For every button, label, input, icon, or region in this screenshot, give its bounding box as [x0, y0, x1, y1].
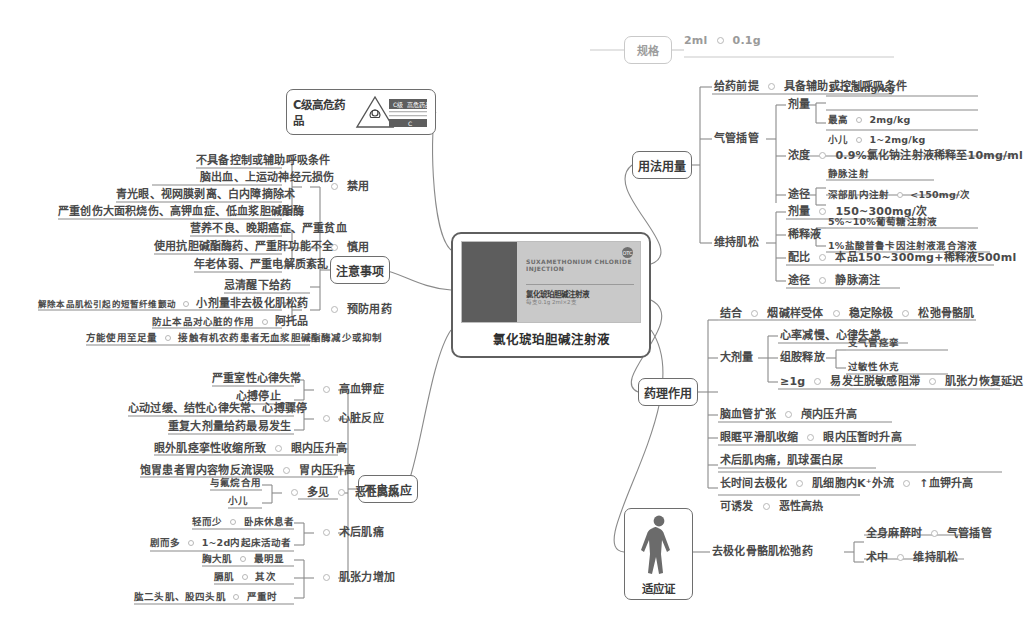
connector-dot — [768, 83, 775, 90]
connector-dot — [183, 301, 189, 307]
caution-item-1: 使用抗胆碱酯酶药、严重肝功能不全 — [154, 241, 333, 252]
contraindicated-item-0: 不具备控制或辅助呼吸条件 — [196, 155, 330, 166]
adverse-intraocular-row: 眼外肌痉挛性收缩所致 眼内压升高 — [154, 443, 347, 454]
package-dark-panel — [462, 242, 517, 322]
topic-usage[interactable]: 用法用量 — [632, 151, 692, 179]
intubation-dose-child-label: 小儿 — [828, 134, 848, 145]
pharm-binding-label: 结合 — [720, 307, 742, 320]
pharm-depolarization-detail: 长时间去极化 肌细胞内K⁺外流 ↑血钾升高 — [720, 478, 973, 489]
maintenance-route-value: 静脉滴注 — [835, 274, 880, 287]
connector-dot — [856, 137, 862, 143]
connector-dot — [262, 319, 268, 325]
pharm-histamine-label: 组胺释放 — [780, 352, 825, 363]
adverse-cardiac-row: 心脏反应 — [318, 413, 384, 424]
precautions-prophylaxis-row: 预防用药 — [326, 304, 392, 315]
connector-dot — [323, 529, 330, 536]
central-topic-node[interactable]: OTC SUXAMETHONIUM CHLORIDE INJECTION 氯化琥… — [451, 232, 651, 358]
human-body-icon — [637, 513, 681, 579]
topic-indications[interactable]: 适应证 — [624, 508, 693, 600]
pharm-ocular-value: 眼内压暂时升高 — [823, 431, 901, 444]
hazard-class-label: C级高危药品 — [293, 96, 351, 128]
adverse-gastric-row: 饱胃患者胃内容物反流误吸 胃内压升高 — [140, 465, 355, 476]
connector-dot — [323, 415, 330, 422]
precautions-organophosphate-value: 接触有机农药患者无血浆胆碱酯酶减少或抑制 — [178, 332, 382, 343]
adverse-hyperkalemia-label: 高血钾症 — [339, 383, 384, 396]
connector-dot — [796, 480, 803, 487]
usage-maintenance-label: 维持肌松 — [714, 237, 759, 248]
connector-dot — [819, 277, 826, 284]
prophylaxis-item-1: 防止本品对心脏的作用 阿托品 — [152, 316, 309, 327]
connector-dot — [275, 445, 282, 452]
maintenance-diluent-option2: 1%盐酸普鲁卡因注射液混合溶液 — [828, 241, 977, 251]
pharm-highdose-label: 大剂量 — [720, 352, 754, 363]
svg-text:高危药品: 高危药品 — [407, 101, 429, 109]
connector-dot — [291, 489, 298, 496]
spec-mass: 0.1g — [733, 34, 761, 47]
indications-item-1-value: 维持肌松 — [913, 551, 958, 564]
central-topic-label: 氯化琥珀胆碱注射液 — [461, 329, 641, 348]
hazard-class-node[interactable]: C级高危药品 C级 高危药品 C — [286, 89, 436, 135]
pharm-ocular-row: 眼眶平滑肌收缩 眼内压暂时升高 — [720, 432, 902, 443]
intubation-route-im-value: <150mg/次 — [910, 189, 970, 200]
intubation-dose-max-label: 最高 — [828, 114, 848, 125]
pharm-cerebral-label: 脑血管扩张 — [720, 408, 776, 421]
biohazard-warning-icon: C级 高危药品 C — [353, 93, 429, 131]
connector-dot — [323, 574, 330, 581]
topic-spec[interactable]: 规格 — [624, 36, 672, 64]
adverse-tension-row: 肌张力增加 — [318, 572, 395, 583]
intubation-dose-label: 剂量 — [788, 99, 810, 110]
tension-item-2-degree: 严重时 — [247, 591, 278, 602]
pharm-myalgia-label: 术后肌肉痛，肌球蛋白尿 — [720, 455, 843, 466]
topic-precautions[interactable]: 注意事项 — [330, 256, 390, 284]
maintenance-diluent-label: 稀释液 — [788, 229, 822, 240]
pharm-over1g-label: ≥1g — [780, 375, 805, 388]
prophylaxis-item-0: 解除本品肌松引起的短暂纤维颤动 小剂量非去极化肌松药 — [38, 298, 308, 309]
connector-dot — [897, 192, 903, 198]
precautions-organophosphate-row: 方能使用至足量 接触有机农药患者无血浆胆碱酯酶减少或抑制 — [86, 333, 382, 343]
connector-dot — [331, 183, 338, 190]
contraindicated-item-1: 脑出血、上运动神经元损伤 — [200, 172, 334, 183]
tension-item-2: 肱二头肌、股四头肌 严重时 — [134, 592, 277, 602]
adverse-gastric-label: 胃内压升高 — [299, 464, 355, 477]
intubation-dose-standard: 1~1.5mg/kg — [828, 84, 895, 94]
adverse-intraocular-label: 眼内压升高 — [291, 442, 347, 455]
connector-dot — [242, 574, 248, 580]
pharm-binding-v1: 烟碱样受体 — [767, 307, 823, 320]
tension-item-0-degree: 最明显 — [254, 553, 285, 564]
package-english-name: SUXAMETHONIUM CHLORIDE INJECTION — [526, 258, 640, 272]
tension-item-0: 胸大肌 最明显 — [202, 554, 284, 564]
connector-dot — [833, 310, 840, 317]
connector-dot — [283, 467, 290, 474]
adverse-postop-label: 术后肌痛 — [339, 526, 384, 539]
topic-pharmacology[interactable]: 药理作用 — [638, 378, 698, 406]
adverse-mh-label: 恶性高热 — [355, 486, 400, 499]
prophylaxis-item-0-drug: 小剂量非去极化肌松药 — [196, 297, 308, 310]
precautions-caution-label: 慎用 — [347, 241, 369, 254]
tension-item-1: 膈肌 其次 — [214, 572, 276, 582]
connector-dot — [188, 540, 194, 546]
pharm-over1g-v2: 肌张力恢复延迟 — [945, 375, 1023, 388]
connector-dot — [165, 335, 171, 341]
intubation-concentration-label: 浓度 — [788, 149, 810, 162]
pharm-depolarization-v1: 肌细胞内K⁺外流 — [812, 477, 894, 490]
cardiac-item-0: 心动过缓、结性心律失常、心搏骤停 — [128, 403, 307, 414]
maintenance-ratio-value: 本品150~300mg+稀释液500ml — [835, 251, 1016, 264]
adverse-gastric-cause: 饱胃患者胃内容物反流误吸 — [140, 464, 274, 477]
svg-text:C级: C级 — [393, 101, 403, 109]
connector-dot — [819, 208, 826, 215]
connector-dot — [856, 117, 862, 123]
drug-package-image: OTC SUXAMETHONIUM CHLORIDE INJECTION 氯化琥… — [461, 241, 641, 323]
maintenance-route-row: 途径 静脉滴注 — [788, 275, 880, 286]
tension-item-1-degree: 其次 — [255, 571, 275, 582]
pharm-induce-label: 可诱发 — [720, 500, 754, 513]
connector-dot — [931, 530, 938, 537]
pharm-induce-row: 可诱发 恶性高热 — [720, 501, 823, 512]
pharm-over1g-row: ≥1g 易发生脱敏感阻滞 肌张力恢复延迟 — [780, 376, 1024, 387]
intubation-dose-max-row: 最高 2mg/kg — [828, 115, 911, 125]
connector-dot — [230, 519, 236, 525]
intubation-dose-child-row: 小儿 1~2mg/kg — [828, 135, 926, 145]
caution-item-0: 营养不良、晚期癌症、严重贫血 — [190, 223, 347, 234]
intubation-route-im-row: 深部肌内注射 <150mg/次 — [828, 190, 970, 200]
precautions-prophylaxis-label: 预防用药 — [347, 303, 392, 316]
maintenance-ratio-label: 配比 — [788, 251, 810, 264]
